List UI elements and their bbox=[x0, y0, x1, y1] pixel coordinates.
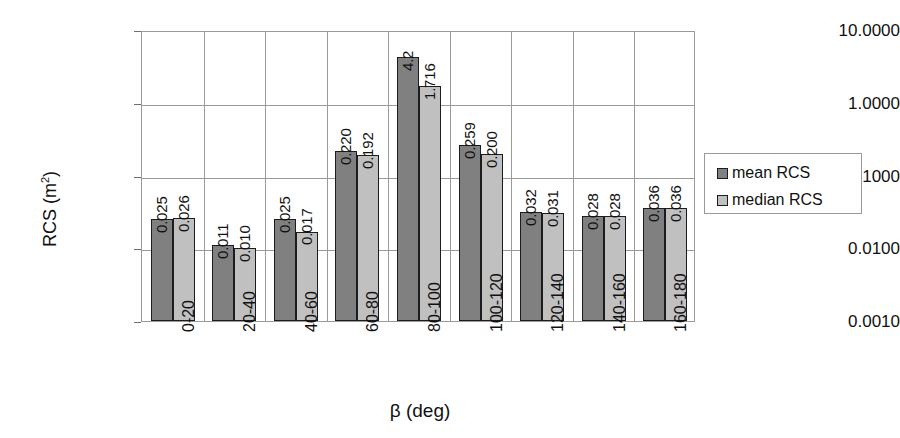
bar-value-label: 0.259 bbox=[461, 123, 478, 160]
y-axis-tick-mark bbox=[134, 249, 141, 250]
y-axis-tick-mark bbox=[134, 31, 141, 32]
y-axis-title-paren: ) bbox=[40, 171, 60, 177]
x-axis-tick-label: 40-60 bbox=[303, 291, 321, 332]
bar-value-label: 0.220 bbox=[337, 128, 354, 165]
bar-mean bbox=[459, 145, 481, 321]
bar-value-label: 0.010 bbox=[236, 226, 253, 263]
bar-mean bbox=[335, 151, 357, 321]
gridline-vertical bbox=[327, 32, 328, 321]
y-axis-tick-label: 10.0000 bbox=[772, 21, 900, 41]
x-axis-tick-label: 100-120 bbox=[488, 273, 506, 332]
gridline-vertical bbox=[450, 32, 451, 321]
x-axis-tick-label: 60-80 bbox=[364, 291, 382, 332]
y-axis-tick-mark bbox=[134, 104, 141, 105]
y-axis-tick-label: 0.0100 bbox=[772, 239, 900, 259]
x-axis-tick-label: 140-160 bbox=[611, 273, 629, 332]
y-axis-tick-mark bbox=[134, 177, 141, 178]
bar-value-label: 0.026 bbox=[175, 196, 192, 233]
bar-mean bbox=[520, 212, 542, 321]
legend-item-mean[interactable]: mean RCS bbox=[717, 164, 810, 182]
legend-swatch-mean bbox=[717, 168, 728, 179]
bar-value-label: 0.025 bbox=[153, 197, 170, 234]
bar-value-label: 0.028 bbox=[584, 193, 601, 230]
bar-mean bbox=[151, 219, 173, 321]
y-axis-title-superscript: 2 bbox=[39, 177, 51, 183]
bar-mean bbox=[582, 216, 604, 321]
x-axis-tick-label: 0-20 bbox=[180, 300, 198, 332]
bar-value-label: 1.716 bbox=[421, 63, 438, 100]
gridline-vertical bbox=[265, 32, 266, 321]
chart-figure: RCS (m2) 10.00001.00000.10000.01000.0010… bbox=[0, 0, 900, 438]
y-axis-title: RCS (m2) bbox=[39, 149, 61, 269]
bar-value-label: 0.032 bbox=[522, 189, 539, 226]
legend-swatch-median bbox=[717, 195, 728, 206]
x-axis-title: β (deg) bbox=[330, 400, 510, 422]
bar-value-label: 0.031 bbox=[544, 190, 561, 227]
bar-value-label: 0.028 bbox=[606, 193, 623, 230]
legend-label: median RCS bbox=[732, 191, 823, 209]
y-axis-tick-mark bbox=[134, 322, 141, 323]
bar-value-label: 0.192 bbox=[359, 132, 376, 169]
bar-value-label: 0.200 bbox=[483, 131, 500, 168]
x-axis-tick-label: 20-40 bbox=[241, 291, 259, 332]
y-axis-tick-label: 0.0010 bbox=[772, 312, 900, 332]
bar-mean bbox=[274, 219, 296, 321]
x-axis-tick-label: 80-100 bbox=[426, 282, 444, 332]
chart-legend: mean RCSmedian RCS bbox=[704, 153, 862, 214]
bar-mean bbox=[643, 208, 665, 321]
y-axis-tick-label: 1.0000 bbox=[772, 94, 900, 114]
bar-value-label: 0.025 bbox=[276, 197, 293, 234]
x-axis-tick-label: 120-140 bbox=[549, 273, 567, 332]
gridline-vertical bbox=[634, 32, 635, 321]
legend-label: mean RCS bbox=[732, 164, 810, 182]
gridline-vertical bbox=[388, 32, 389, 321]
bar-value-label: 4.2 bbox=[399, 51, 416, 71]
legend-item-median[interactable]: median RCS bbox=[717, 191, 823, 209]
bar-value-label: 0.017 bbox=[298, 209, 315, 246]
gridline-vertical bbox=[573, 32, 574, 321]
y-axis-title-text: RCS (m bbox=[40, 183, 60, 247]
gridline-vertical bbox=[511, 32, 512, 321]
x-axis-tick-label: 160-180 bbox=[672, 273, 690, 332]
gridline-vertical bbox=[204, 32, 205, 321]
bar-value-label: 0.036 bbox=[667, 185, 684, 222]
bar-mean bbox=[397, 57, 419, 321]
bar-value-label: 0.011 bbox=[214, 224, 231, 259]
bar-value-label: 0.036 bbox=[645, 185, 662, 222]
